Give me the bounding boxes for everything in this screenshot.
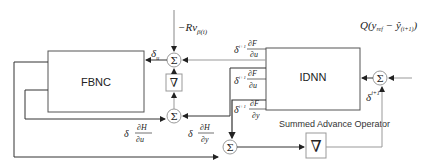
sigma-icon: Σ [170, 55, 177, 66]
svg-text:−Rvβ(i): −Rvβ(i) [178, 21, 208, 36]
svg-text:δ: δ [124, 128, 129, 139]
label-top-input: −Rvβ(i) [178, 21, 208, 36]
sigma-icon: Σ [170, 111, 177, 122]
fbnc-block: FBNC [48, 51, 144, 112]
svg-text:δi+1: δi+1 [366, 90, 380, 103]
svg-text:∂H: ∂H [137, 123, 148, 132]
block-diagram: FBNC IDNN Σ ∇ Σ Σ Σ ∇ Summed Advance Ope… [0, 0, 435, 166]
label-idnn-dF-dy: δi+1 ∂F ∂y [234, 99, 266, 120]
svg-text:∂u: ∂u [250, 50, 258, 59]
svg-text:δu: δu [151, 47, 159, 61]
idnn-block: IDNN [266, 48, 360, 110]
svg-text:δi+1: δi+1 [234, 44, 246, 55]
svg-text:∂F: ∂F [250, 99, 259, 108]
svg-text:Q(yref − ŷ(i+1)): Q(yref − ŷ(i+1)) [360, 19, 417, 33]
svg-text:δi+1: δi+1 [234, 75, 246, 86]
label-fbnc-dH-du-prev: δ ∂H ∂u [124, 123, 152, 144]
svg-text:∂y: ∂y [201, 135, 209, 144]
sigma-icon: Σ [376, 73, 383, 84]
nabla-icon: ∇ [170, 76, 178, 90]
svg-text:δi+1: δi+1 [234, 104, 246, 115]
label-idnn-dF-du-prev: δi+1 ∂F ∂u [234, 69, 266, 90]
svg-text:∂H: ∂H [200, 123, 211, 132]
label-fbnc-dH-dy: δ ∂H ∂y [188, 123, 214, 144]
gradient-block-top: ∇ [166, 74, 182, 91]
nabla-icon: ∇ [310, 137, 321, 156]
summed-advance-operator-caption: Summed Advance Operator [279, 119, 390, 129]
svg-text:δ: δ [188, 128, 193, 139]
svg-text:∂F: ∂F [248, 69, 257, 78]
svg-text:∂u: ∂u [249, 81, 257, 90]
sum-node-top: Σ [167, 53, 181, 67]
sigma-icon: Σ [226, 142, 233, 153]
sum-node-bottom: Σ [223, 140, 237, 154]
summed-advance-operator-block: ∇ [306, 133, 326, 158]
fbnc-label: FBNC [81, 76, 111, 88]
label-delta-u: δu [151, 47, 159, 61]
label-right-input: Q(yref − ŷ(i+1)) [360, 19, 417, 33]
svg-text:∂y: ∂y [252, 111, 260, 120]
sum-node-middle: Σ [167, 109, 181, 123]
svg-text:∂F: ∂F [248, 39, 257, 48]
idnn-label: IDNN [300, 71, 327, 83]
label-delta-y-next: δi+1 [366, 90, 380, 103]
sum-node-right: Σ [373, 71, 387, 85]
svg-text:∂u: ∂u [136, 135, 144, 144]
label-idnn-dF-du: δi+1 ∂F ∂u [234, 39, 266, 59]
